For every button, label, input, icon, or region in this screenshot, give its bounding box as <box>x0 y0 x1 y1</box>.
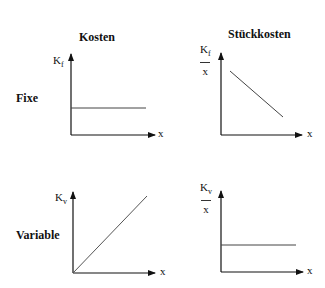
ylabel-main: K <box>53 54 61 66</box>
ylabel-main: K <box>55 191 63 203</box>
ylabel-denominator: x <box>203 65 209 77</box>
fraction-bar <box>201 200 211 201</box>
ylabel-main: K <box>200 181 208 193</box>
chart-fixe-stueckkosten <box>221 53 302 135</box>
ylabel-kf: Kf <box>53 54 64 69</box>
ylabel-sub: f <box>208 49 211 58</box>
cost-diagrams <box>0 0 325 288</box>
chart-variable-stueckkosten <box>221 191 303 272</box>
xlabel-3: x <box>160 265 166 277</box>
ylabel-kv-over-x: Kv x <box>200 182 212 215</box>
ylabel-sub: v <box>208 187 212 196</box>
xlabel-1: x <box>158 127 164 139</box>
ylabel-kf-over-x: Kf x <box>200 44 211 77</box>
ylabel-kv: Kv <box>55 191 67 206</box>
xlabel-4: x <box>307 264 313 276</box>
fraction-bar <box>200 62 210 63</box>
chart-fixe-kosten <box>71 54 155 135</box>
ylabel-sub: f <box>61 60 64 69</box>
chart-variable-kosten <box>73 192 155 273</box>
ylabel-sub: v <box>63 197 67 206</box>
ylabel-main: K <box>200 43 208 55</box>
ylabel-denominator: x <box>203 203 209 215</box>
xlabel-2: x <box>307 127 313 139</box>
